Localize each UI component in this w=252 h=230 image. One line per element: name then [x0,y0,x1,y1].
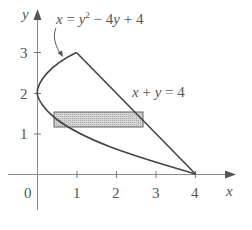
x-axis-label: x [225,183,233,199]
y-tick-label-2: 2 [20,86,28,102]
x-axis-arrow-icon [225,171,236,179]
y-tick-label-3: 3 [20,45,28,61]
x-tick-label-4: 4 [191,185,199,201]
y-axis-arrow-icon [34,9,42,20]
x-tick-label-2: 2 [112,185,120,201]
y-axis-label: y [20,6,29,22]
x-tick-label-3: 3 [152,185,160,201]
x-tick-label-1: 1 [73,185,81,201]
line-equation-label: x + y = 4 [131,84,185,100]
representative-strip [54,112,143,127]
callout-arrow-icon [54,28,61,54]
region-diagram: x y 0 1 2 3 4 1 2 3 x = y2 − 4y + 4 x + … [0,0,252,230]
y-tick-label-1: 1 [20,126,28,142]
parabola-equation-label: x = y2 − 4y + 4 [55,10,144,27]
origin-label: 0 [24,185,32,201]
